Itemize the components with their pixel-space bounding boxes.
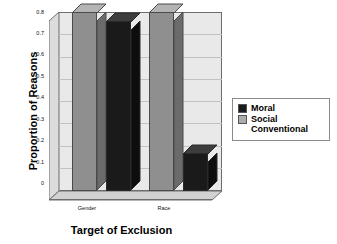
y-tick-label: 0.8 [22,9,44,15]
bar-side-face [174,12,183,191]
legend-label-moral: Moral [251,103,275,113]
y-tick-label: 0.1 [22,159,44,165]
legend-swatch-moral [238,104,247,113]
y-tick-label: 0.7 [22,30,44,36]
y-tick-label: 0.5 [22,73,44,79]
y-tick-label: 0.2 [22,137,44,143]
bar-side-face [97,12,106,191]
x-axis-title: Target of Exclusion [0,224,290,236]
x-tick-label-race: Race [134,205,194,211]
y-tick-label: 0.3 [22,116,44,122]
bar-series-container [49,12,222,200]
legend: Moral Social Conventional [232,98,330,141]
x-tick-label-gender: Gender [57,205,117,211]
legend-item-social-conventional: Social Conventional [238,114,324,134]
legend-swatch-social-conventional [238,115,247,124]
bar-side-face [208,153,217,191]
bar-race-moral [183,153,208,191]
bar-front-face [72,12,97,191]
y-tick-label: 0 [22,180,44,186]
legend-item-moral: Moral [238,103,324,113]
bar-gender-moral [106,21,131,191]
legend-label-social-conventional: Social Conventional [251,114,324,134]
bar-front-face [149,12,174,191]
y-tick-label: 0.6 [22,51,44,57]
bar-chart: Proportion of Reasons 0.8 0.7 0.6 0.5 0.… [0,0,337,244]
y-tick-label: 0.4 [22,94,44,100]
bar-gender-social-conventional [72,12,97,191]
bar-front-face [183,153,208,191]
plot-area [49,12,222,200]
bar-race-social-conventional [149,12,174,191]
x-axis-baseline [49,199,213,200]
bar-front-face [106,21,131,191]
y-axis-ticks: 0.8 0.7 0.6 0.5 0.4 0.3 0.2 0.1 0 [22,0,44,244]
bar-side-face [131,21,140,191]
